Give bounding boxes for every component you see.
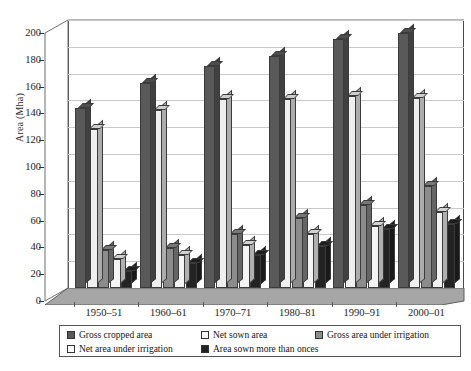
plot-area: 020406080100120140160180200 xyxy=(45,20,465,305)
bar-side-face xyxy=(432,177,437,283)
legend-swatch-gross-area-under-irrigation xyxy=(315,331,323,339)
legend-label: Gross cropped area xyxy=(79,330,152,340)
x-axis-tick-label: 1960–61 xyxy=(133,307,203,318)
x-axis-tick-mark xyxy=(396,302,397,307)
x-axis-tick-label: 1990–91 xyxy=(327,307,397,318)
bar-side-face xyxy=(379,217,384,283)
x-axis-tick-label: 2000–01 xyxy=(391,307,461,318)
x-axis-tick-mark xyxy=(267,302,268,307)
bar-side-face xyxy=(409,24,414,283)
bar xyxy=(140,83,151,288)
x-axis-tick-mark xyxy=(332,302,333,307)
y-axis-tick-mark xyxy=(39,247,44,248)
bar-side-face xyxy=(162,101,167,283)
bar xyxy=(204,66,215,288)
y-axis-tick-mark xyxy=(39,60,44,61)
y-axis-tick-label: 180 xyxy=(0,55,41,66)
bar-side-face xyxy=(86,99,91,283)
bar-group xyxy=(75,20,139,288)
bar xyxy=(333,39,344,288)
bar xyxy=(398,33,409,288)
bar-group xyxy=(269,20,333,288)
chart-legend: Gross cropped area Net sown area Gross a… xyxy=(59,325,461,357)
bar-side-face xyxy=(443,202,448,283)
x-axis-labels: 1950–511960–611970–711980–811990–912000–… xyxy=(45,307,465,323)
bar-front-face xyxy=(75,108,86,288)
bar-front-face xyxy=(140,83,151,288)
y-axis-tick-label: 40 xyxy=(0,242,41,253)
legend-item-net-area-under-irrigation: Net area under irrigation xyxy=(67,344,173,354)
bars-layer xyxy=(45,20,465,305)
bar-side-face xyxy=(303,209,308,283)
x-axis-tick-mark xyxy=(203,302,204,307)
legend-item-gross-cropped-area: Gross cropped area xyxy=(67,330,152,340)
legend-label: Gross area under irrigation xyxy=(327,330,429,340)
bar-side-face xyxy=(291,90,296,283)
y-axis-tick-mark xyxy=(39,167,44,168)
bar-side-face xyxy=(420,89,425,283)
y-axis-tick-label: 100 xyxy=(0,162,41,173)
y-axis-tick-mark xyxy=(39,301,44,302)
bar-front-face xyxy=(204,66,215,288)
bar-front-face xyxy=(398,33,409,288)
x-axis-tick-label: 1980–81 xyxy=(262,307,332,318)
y-axis-tick-label: 140 xyxy=(0,108,41,119)
legend-swatch-gross-cropped-area xyxy=(67,331,75,339)
legend-swatch-net-sown-area xyxy=(201,331,209,339)
y-axis-tick-label: 20 xyxy=(0,269,41,280)
bar-side-face xyxy=(344,30,349,283)
y-axis-tick-label: 0 xyxy=(0,296,41,307)
x-axis-tick-label: 1970–71 xyxy=(198,307,268,318)
bar-chart: Area (Mha) 020406080100120140160180200 1… xyxy=(0,0,471,371)
legend-item-net-sown-area: Net sown area xyxy=(201,330,267,340)
bar-side-face xyxy=(215,56,220,283)
legend-label: Net sown area xyxy=(213,330,267,340)
bar-group xyxy=(140,20,204,288)
y-axis-tick-mark xyxy=(39,87,44,88)
legend-item-area-sown-more-than-onces: Area sown more than onces xyxy=(201,344,319,354)
bar-side-face xyxy=(227,90,232,283)
bar-group xyxy=(398,20,462,288)
bar-side-face xyxy=(132,261,137,283)
y-axis-tick-mark xyxy=(39,194,44,195)
y-axis-tick-label: 200 xyxy=(0,28,41,39)
x-axis-tick-label: 1950–51 xyxy=(69,307,139,318)
bar-group xyxy=(333,20,397,288)
y-axis-tick-label: 160 xyxy=(0,82,41,93)
legend-swatch-net-area-under-irrigation xyxy=(67,345,75,353)
legend-label: Net area under irrigation xyxy=(79,344,173,354)
bar-side-face xyxy=(356,87,361,283)
bar-side-face xyxy=(390,220,395,283)
bar-side-face xyxy=(367,196,372,283)
y-axis-tick-label: 80 xyxy=(0,189,41,200)
bar xyxy=(75,108,86,288)
bar-side-face xyxy=(151,74,156,283)
legend-swatch-area-sown-more-than-onces xyxy=(201,345,209,353)
bar-front-face xyxy=(269,56,280,288)
y-axis-tick-label: 120 xyxy=(0,135,41,146)
bar xyxy=(269,56,280,288)
y-axis-tick-mark xyxy=(39,221,44,222)
legend-item-gross-area-under-irrigation: Gross area under irrigation xyxy=(315,330,429,340)
y-axis-tick-mark xyxy=(39,274,44,275)
bar-side-face xyxy=(98,119,103,283)
y-axis-tick-label: 60 xyxy=(0,216,41,227)
x-axis-tick-mark xyxy=(138,302,139,307)
bar-group xyxy=(204,20,268,288)
bar-front-face xyxy=(333,39,344,288)
bar-side-face xyxy=(280,47,285,283)
legend-label: Area sown more than onces xyxy=(213,344,319,354)
bar-side-face xyxy=(455,214,460,283)
y-axis-tick-mark xyxy=(39,113,44,114)
x-axis-tick-mark xyxy=(74,302,75,307)
y-axis-tick-mark xyxy=(39,140,44,141)
y-axis-tick-mark xyxy=(39,33,44,34)
